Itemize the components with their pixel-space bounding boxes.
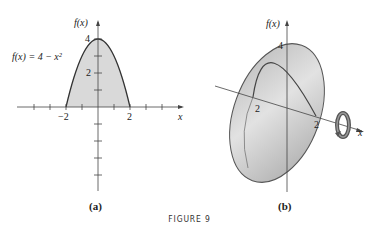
y-axis-label: f(x): [266, 18, 281, 30]
panel-a-label: (a): [89, 200, 102, 213]
tick-label-x-neg2: −2: [58, 111, 69, 122]
figure-caption: FIGURE 9: [28, 214, 350, 224]
tick-label-x-near: 2: [314, 119, 319, 130]
y-axis-arrow-icon: [96, 20, 100, 26]
panel-b-label: (b): [278, 200, 292, 213]
panel-b: f(x) x 4 2 2 (b): [212, 18, 364, 213]
tick-label-y-4: 4: [85, 33, 90, 44]
tick-label-x-far: 2: [255, 103, 260, 114]
y-axis-label: f(x): [74, 17, 89, 29]
panel-a: f(x) x 4 2 −2 2 f(x) = 4 − x² (a): [12, 17, 184, 213]
tick-label-x-2: 2: [127, 111, 132, 122]
tick-label-y-2: 2: [86, 67, 91, 78]
y-axis-arrow-icon: [285, 20, 289, 26]
x-axis-label: x: [357, 127, 363, 138]
tick-label-y-4: 4: [278, 40, 283, 51]
x-axis-label: x: [177, 111, 183, 122]
figure-canvas: f(x) x 4 2 −2 2 f(x) = 4 − x² (a): [0, 0, 379, 236]
x-axis-arrow-icon: [178, 105, 184, 109]
solid-of-revolution: [212, 31, 342, 196]
function-label: f(x) = 4 − x²: [12, 51, 63, 63]
